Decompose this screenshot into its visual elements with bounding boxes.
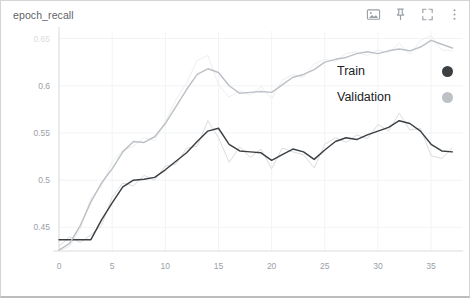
pin-icon[interactable] — [392, 6, 409, 23]
card-toolbar — [365, 6, 463, 23]
legend-label-validation: Validation — [337, 90, 391, 104]
legend-label-train: Train — [337, 64, 365, 78]
y-axis-tick-labels: 0.450.50.550.60.65 — [33, 34, 50, 233]
image-icon[interactable] — [365, 6, 382, 23]
svg-text:25: 25 — [320, 261, 330, 271]
fullscreen-icon[interactable] — [419, 6, 436, 23]
svg-text:0.45: 0.45 — [33, 222, 50, 232]
scalar-chart-card: epoch_recall — [0, 0, 470, 298]
legend-item-train[interactable]: Train — [337, 58, 457, 84]
legend-item-validation[interactable]: Validation — [337, 84, 457, 110]
legend-swatch-train — [442, 66, 453, 77]
svg-text:20: 20 — [267, 261, 277, 271]
legend-swatch-validation — [442, 92, 453, 103]
svg-text:0.55: 0.55 — [33, 128, 50, 138]
svg-text:0.65: 0.65 — [33, 34, 50, 44]
page-title: epoch_recall — [13, 9, 74, 21]
more-options-icon[interactable] — [446, 6, 463, 23]
svg-text:0: 0 — [57, 261, 62, 271]
svg-text:10: 10 — [161, 261, 171, 271]
svg-text:15: 15 — [214, 261, 224, 271]
svg-text:0.5: 0.5 — [38, 175, 50, 185]
svg-text:5: 5 — [110, 261, 115, 271]
x-axis-tick-labels: 05101520253035 — [57, 261, 436, 271]
svg-text:35: 35 — [426, 261, 436, 271]
svg-text:0.6: 0.6 — [38, 81, 50, 91]
chart-legend: Train Validation — [337, 58, 457, 110]
svg-text:30: 30 — [373, 261, 383, 271]
